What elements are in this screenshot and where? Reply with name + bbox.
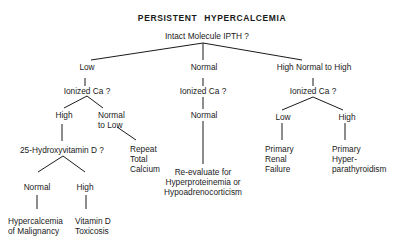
- high-high-label: High: [338, 112, 355, 122]
- hypercalcemia-malignancy-outcome: Hypercalcemia of Malignancy: [8, 216, 63, 236]
- vitd-high-label: High: [76, 182, 93, 192]
- root-question: Intact Molecule IPTH ?: [165, 31, 249, 41]
- diagram-title: PERSISTENT HYPERCALCEMIA: [138, 13, 286, 23]
- low-high-label: High: [55, 110, 72, 120]
- branch-high-label: High Normal to High: [277, 62, 352, 72]
- vitamin-d-toxicosis-outcome: Vitamin D Toxicosis: [75, 216, 111, 236]
- vitamin-d-question: 25-Hydroxyvitamin D ?: [20, 145, 104, 155]
- high-low-label: Low: [275, 112, 290, 122]
- branch-low-label: Low: [79, 62, 94, 72]
- repeat-total-calcium-outcome: Repeat Total Calcium: [130, 144, 160, 174]
- low-normal-to-low-label: Normal to Low: [98, 110, 125, 130]
- primary-renal-failure-outcome: Primary Renal Failure: [265, 144, 294, 174]
- re-evaluate-outcome: Re-evaluate for Hyperproteinemia or Hypo…: [164, 167, 242, 197]
- normal-ionized-ca-question: Ionized Ca ?: [180, 86, 227, 96]
- branch-normal-label: Normal: [191, 62, 218, 72]
- low-ionized-ca-question: Ionized Ca ?: [64, 86, 111, 96]
- primary-hyperparathyroidism-outcome: Primary Hyper- parathyroidism: [332, 144, 386, 174]
- vitd-normal-label: Normal: [24, 182, 51, 192]
- high-ionized-ca-question: Ionized Ca ?: [290, 86, 337, 96]
- normal-normal-label: Normal: [191, 110, 218, 120]
